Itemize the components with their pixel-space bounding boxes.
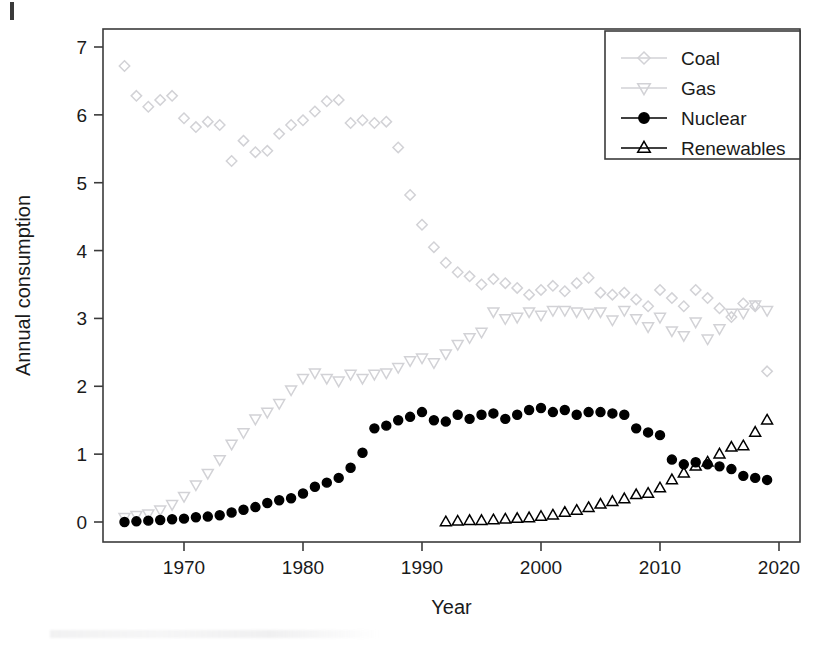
data-point-triangle-down <box>250 415 261 425</box>
data-point-circle <box>263 499 272 508</box>
data-point-diamond <box>345 118 355 128</box>
data-point-diamond <box>262 146 272 156</box>
data-point-triangle-up <box>655 482 666 492</box>
data-point-triangle-down <box>238 429 249 439</box>
data-point-triangle-up <box>678 467 689 477</box>
data-point-circle <box>275 496 284 505</box>
data-point-diamond <box>500 278 510 288</box>
annual-consumption-chart: 01234567197019801990200020102020YearAnnu… <box>0 0 831 645</box>
data-point-triangle-down <box>500 315 511 325</box>
data-point-circle <box>132 517 141 526</box>
data-point-diamond <box>226 156 236 166</box>
data-point-triangle-down <box>167 501 178 511</box>
data-point-diamond <box>583 273 593 283</box>
data-point-triangle-down <box>666 327 677 337</box>
legend-label: Coal <box>681 48 720 69</box>
x-tick-label: 1970 <box>163 557 205 578</box>
data-point-diamond <box>524 289 534 299</box>
data-point-diamond <box>417 220 427 230</box>
data-point-triangle-down <box>738 309 749 319</box>
data-point-triangle-down <box>488 308 499 318</box>
data-point-diamond <box>215 120 225 130</box>
data-point-circle <box>287 494 296 503</box>
x-tick-label: 2020 <box>758 557 800 578</box>
data-point-triangle-up <box>666 474 677 484</box>
y-axis: 01234567 <box>76 37 103 533</box>
data-point-diamond <box>607 289 617 299</box>
data-point-triangle-down <box>583 309 594 319</box>
data-point-triangle-down <box>202 469 213 479</box>
data-point-circle <box>203 512 212 521</box>
x-axis: 197019801990200020102020 <box>163 542 800 578</box>
data-point-diamond <box>143 102 153 112</box>
data-point-diamond <box>441 258 451 268</box>
data-point-diamond <box>405 190 415 200</box>
data-point-triangle-up <box>547 509 558 519</box>
data-point-triangle-up <box>714 448 725 458</box>
legend-label: Renewables <box>681 138 786 159</box>
data-point-diamond <box>322 96 332 106</box>
data-point-diamond <box>464 271 474 281</box>
data-point-triangle-down <box>559 307 570 317</box>
data-point-circle <box>382 421 391 430</box>
data-point-triangle-down <box>702 335 713 345</box>
data-point-diamond <box>203 116 213 126</box>
figure-root: 01234567197019801990200020102020YearAnnu… <box>0 0 831 645</box>
legend-label: Gas <box>681 78 716 99</box>
data-point-circle <box>239 505 248 514</box>
data-point-triangle-down <box>357 374 368 384</box>
data-point-circle <box>727 465 736 474</box>
data-point-triangle-up <box>595 499 606 509</box>
legend: CoalGasNuclearRenewables <box>605 31 800 159</box>
data-point-triangle-down <box>571 308 582 318</box>
data-point-triangle-down <box>619 307 630 317</box>
data-point-triangle-down <box>547 307 558 317</box>
x-tick-label: 2000 <box>520 557 562 578</box>
y-tick-label: 1 <box>76 444 87 465</box>
data-point-diamond <box>131 91 141 101</box>
data-point-diamond <box>643 301 653 311</box>
data-point-triangle-up <box>762 414 773 424</box>
data-point-triangle-down <box>452 340 463 350</box>
data-point-circle <box>489 409 498 418</box>
data-point-circle <box>394 416 403 425</box>
data-point-diamond <box>762 366 772 376</box>
series-gas <box>119 301 773 523</box>
data-point-diamond <box>655 285 665 295</box>
data-point-triangle-down <box>321 374 332 384</box>
data-point-circle <box>346 463 355 472</box>
data-point-circle <box>656 431 665 440</box>
data-point-triangle-down <box>464 334 475 344</box>
data-point-circle <box>537 404 546 413</box>
data-point-circle <box>465 414 474 423</box>
data-point-circle <box>513 410 522 419</box>
data-point-circle <box>453 410 462 419</box>
data-point-diamond <box>191 122 201 132</box>
data-point-diamond <box>667 293 677 303</box>
data-point-triangle-up <box>464 515 475 525</box>
data-point-triangle-down <box>524 308 535 318</box>
data-point-circle <box>406 412 415 421</box>
data-point-triangle-up <box>476 515 487 525</box>
y-tick-label: 7 <box>76 37 87 58</box>
data-point-triangle-down <box>262 408 273 418</box>
data-point-circle <box>370 424 379 433</box>
data-point-triangle-down <box>536 311 547 321</box>
data-point-diamond <box>702 293 712 303</box>
x-axis-title: Year <box>431 596 472 618</box>
data-point-diamond <box>572 278 582 288</box>
data-point-diamond <box>476 279 486 289</box>
data-point-diamond <box>250 147 260 157</box>
data-point-triangle-up <box>536 511 547 521</box>
data-point-diamond <box>369 118 379 128</box>
data-point-circle <box>299 489 308 498</box>
data-point-diamond <box>274 129 284 139</box>
data-point-triangle-down <box>762 307 773 317</box>
x-tick-label: 1990 <box>401 557 443 578</box>
data-point-triangle-up <box>512 513 523 523</box>
data-point-triangle-up <box>488 514 499 524</box>
data-point-triangle-up <box>726 442 737 452</box>
data-point-triangle-up <box>571 505 582 515</box>
data-point-triangle-down <box>417 354 428 364</box>
data-point-circle <box>548 408 557 417</box>
